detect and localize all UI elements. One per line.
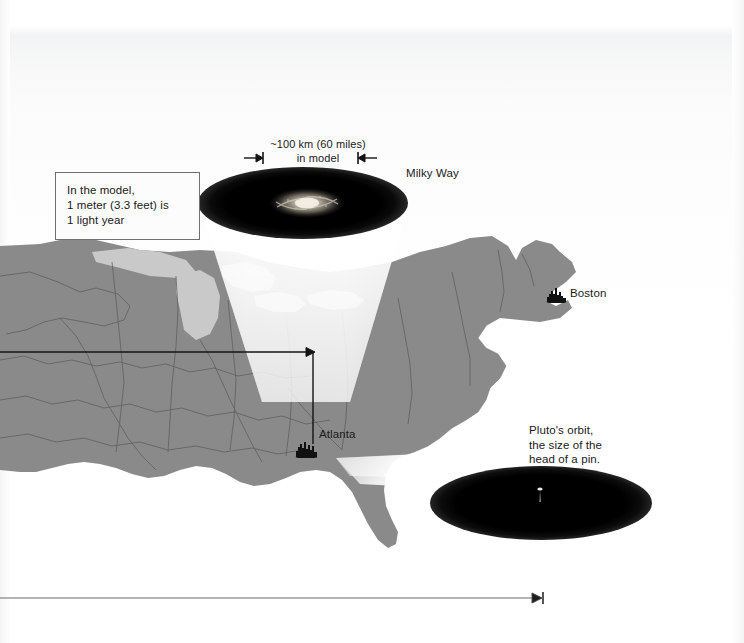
city-label-atlanta: Atlanta xyxy=(319,427,356,442)
city-marker-atlanta xyxy=(294,440,320,458)
city-marker-boston xyxy=(545,287,569,303)
milkyway-size-caption: ~100 km (60 miles) in model xyxy=(262,138,374,165)
model-scale-callout: In the model, 1 meter (3.3 feet) is 1 li… xyxy=(55,172,200,240)
pluto-orbit-callout: Pluto's orbit, the size of the head of a… xyxy=(529,423,649,467)
us-map xyxy=(0,0,744,643)
milky-way-label: Milky Way xyxy=(406,166,459,181)
milky-way-disk xyxy=(198,167,408,239)
city-label-boston: Boston xyxy=(570,286,606,301)
pluto-orbit-disk xyxy=(430,466,652,540)
figure-canvas: In the model, 1 meter (3.3 feet) is 1 li… xyxy=(0,0,744,643)
